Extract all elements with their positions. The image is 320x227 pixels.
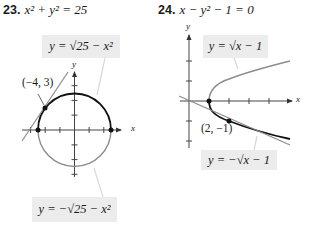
upper-label-connector	[234, 58, 238, 69]
graph-23-lower-equation: y = −√25 − x²	[38, 202, 110, 217]
graph-24-x-axis-label: x	[296, 94, 300, 104]
graph-23-lower-equation-label: y = −√25 − x²	[32, 197, 117, 222]
graph-24-upper-equation-label: y = √x − 1	[203, 35, 268, 58]
lower-label-connector	[94, 168, 103, 197]
graph-24-lower-equation-label: y = −√x − 1	[201, 150, 277, 170]
point-minus5-0	[36, 128, 41, 133]
point-minus4-3	[43, 106, 48, 111]
graph-23-upper-equation: y = √25 − x²	[49, 39, 113, 54]
graph-24-y-axis-label: y	[186, 21, 190, 31]
upper-branch	[209, 61, 290, 101]
graph-23-upper-equation-label: y = √25 − x²	[42, 35, 120, 58]
upper-label-connector	[97, 58, 105, 95]
graph-24-upper-equation: y = √x − 1	[209, 39, 263, 54]
point-5-0	[109, 128, 114, 133]
graph-24-point-label: (2, −1)	[201, 122, 232, 134]
graph-24-lower-equation: y = −√x − 1	[208, 153, 270, 168]
point-label-leader	[38, 94, 44, 105]
tangent-line	[179, 96, 290, 145]
graph-23-point-label: (−4, 3)	[22, 76, 53, 88]
graph-23-y-axis-label: y	[72, 59, 76, 69]
graph-23-x-axis-label: x	[131, 123, 135, 133]
point-1-0	[207, 99, 212, 104]
lower-label-connector	[254, 136, 257, 150]
